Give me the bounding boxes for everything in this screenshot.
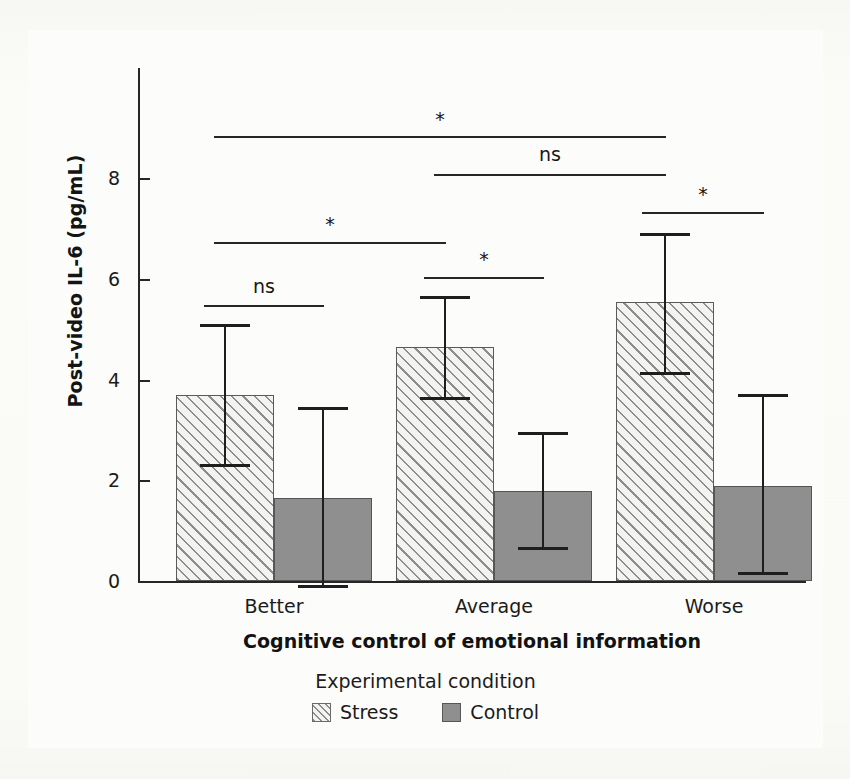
errorbar-cap-upper-average-stress [420, 296, 470, 299]
x-tick-label-worse: Worse [634, 595, 794, 617]
errorbar-cap-lower-worse-control [738, 572, 788, 575]
x-axis-line [138, 581, 806, 583]
legend-item-control: Control [442, 701, 539, 723]
legend: Experimental condition Stress Control [28, 670, 823, 723]
y-tick-label-6: 6 [90, 270, 120, 289]
x-tick-label-better: Better [194, 595, 354, 617]
sig-label-worse-stress-worse-control: * [653, 185, 753, 204]
legend-item-stress: Stress [312, 701, 398, 723]
plot-area: 8 6 4 2 0 Post-video IL-6 (pg/mL) [28, 30, 823, 748]
legend-swatch-control-icon [442, 703, 461, 722]
legend-swatch-stress-icon [312, 703, 331, 722]
figure-bar-chart: 8 6 4 2 0 Post-video IL-6 (pg/mL) [28, 30, 823, 748]
errorbar-average-stress [444, 297, 446, 398]
errorbar-cap-lower-average-control [518, 547, 568, 550]
legend-label-control: Control [470, 701, 539, 723]
errorbar-cap-lower-average-stress [420, 397, 470, 400]
sig-bracket-better-stress-better-control [204, 305, 324, 307]
errorbar-cap-lower-better-stress [200, 464, 250, 467]
errorbar-better-stress [224, 325, 226, 465]
x-axis-title: Cognitive control of emotional informati… [138, 630, 806, 652]
sig-label-average-stress-average-control: * [434, 250, 534, 269]
errorbar-cap-upper-worse-control [738, 394, 788, 397]
sig-label-better-stress-average-stress: * [280, 215, 380, 234]
y-tick-label-0: 0 [90, 572, 120, 591]
sig-label-better-stress-better-control: ns [214, 277, 314, 296]
errorbar-better-control [322, 408, 324, 586]
y-tick-label-8: 8 [90, 169, 120, 188]
errorbar-average-control [542, 433, 544, 548]
errorbar-cap-upper-average-control [518, 432, 568, 435]
sig-label-average-stress-worse-stress: ns [500, 145, 600, 164]
legend-label-stress: Stress [340, 701, 398, 723]
y-tick-label-2: 2 [90, 471, 120, 490]
y-axis-line [138, 68, 140, 583]
errorbar-cap-upper-better-control [298, 407, 348, 410]
errorbar-cap-upper-better-stress [200, 324, 250, 327]
sig-label-better-stress-worse-stress: * [390, 110, 490, 129]
errorbar-cap-lower-better-control [298, 585, 348, 588]
y-tick-4 [138, 380, 150, 382]
sig-bracket-worse-stress-worse-control [642, 212, 764, 214]
y-axis-title: Post-video IL-6 (pg/mL) [64, 116, 86, 446]
y-tick-2 [138, 480, 150, 482]
y-tick-8 [138, 178, 150, 180]
x-tick-label-average: Average [414, 595, 574, 617]
y-tick-label-4: 4 [90, 371, 120, 390]
sig-bracket-average-stress-average-control [424, 277, 544, 279]
errorbar-cap-upper-worse-stress [640, 233, 690, 236]
sig-bracket-average-stress-worse-stress [434, 174, 666, 176]
y-tick-6 [138, 279, 150, 281]
sig-bracket-better-stress-average-stress [214, 242, 446, 244]
errorbar-worse-control [762, 395, 764, 573]
errorbar-worse-stress [664, 234, 666, 373]
sig-bracket-better-stress-worse-stress [214, 136, 666, 138]
errorbar-cap-lower-worse-stress [640, 372, 690, 375]
legend-items: Stress Control [28, 701, 823, 723]
legend-title: Experimental condition [28, 670, 823, 692]
